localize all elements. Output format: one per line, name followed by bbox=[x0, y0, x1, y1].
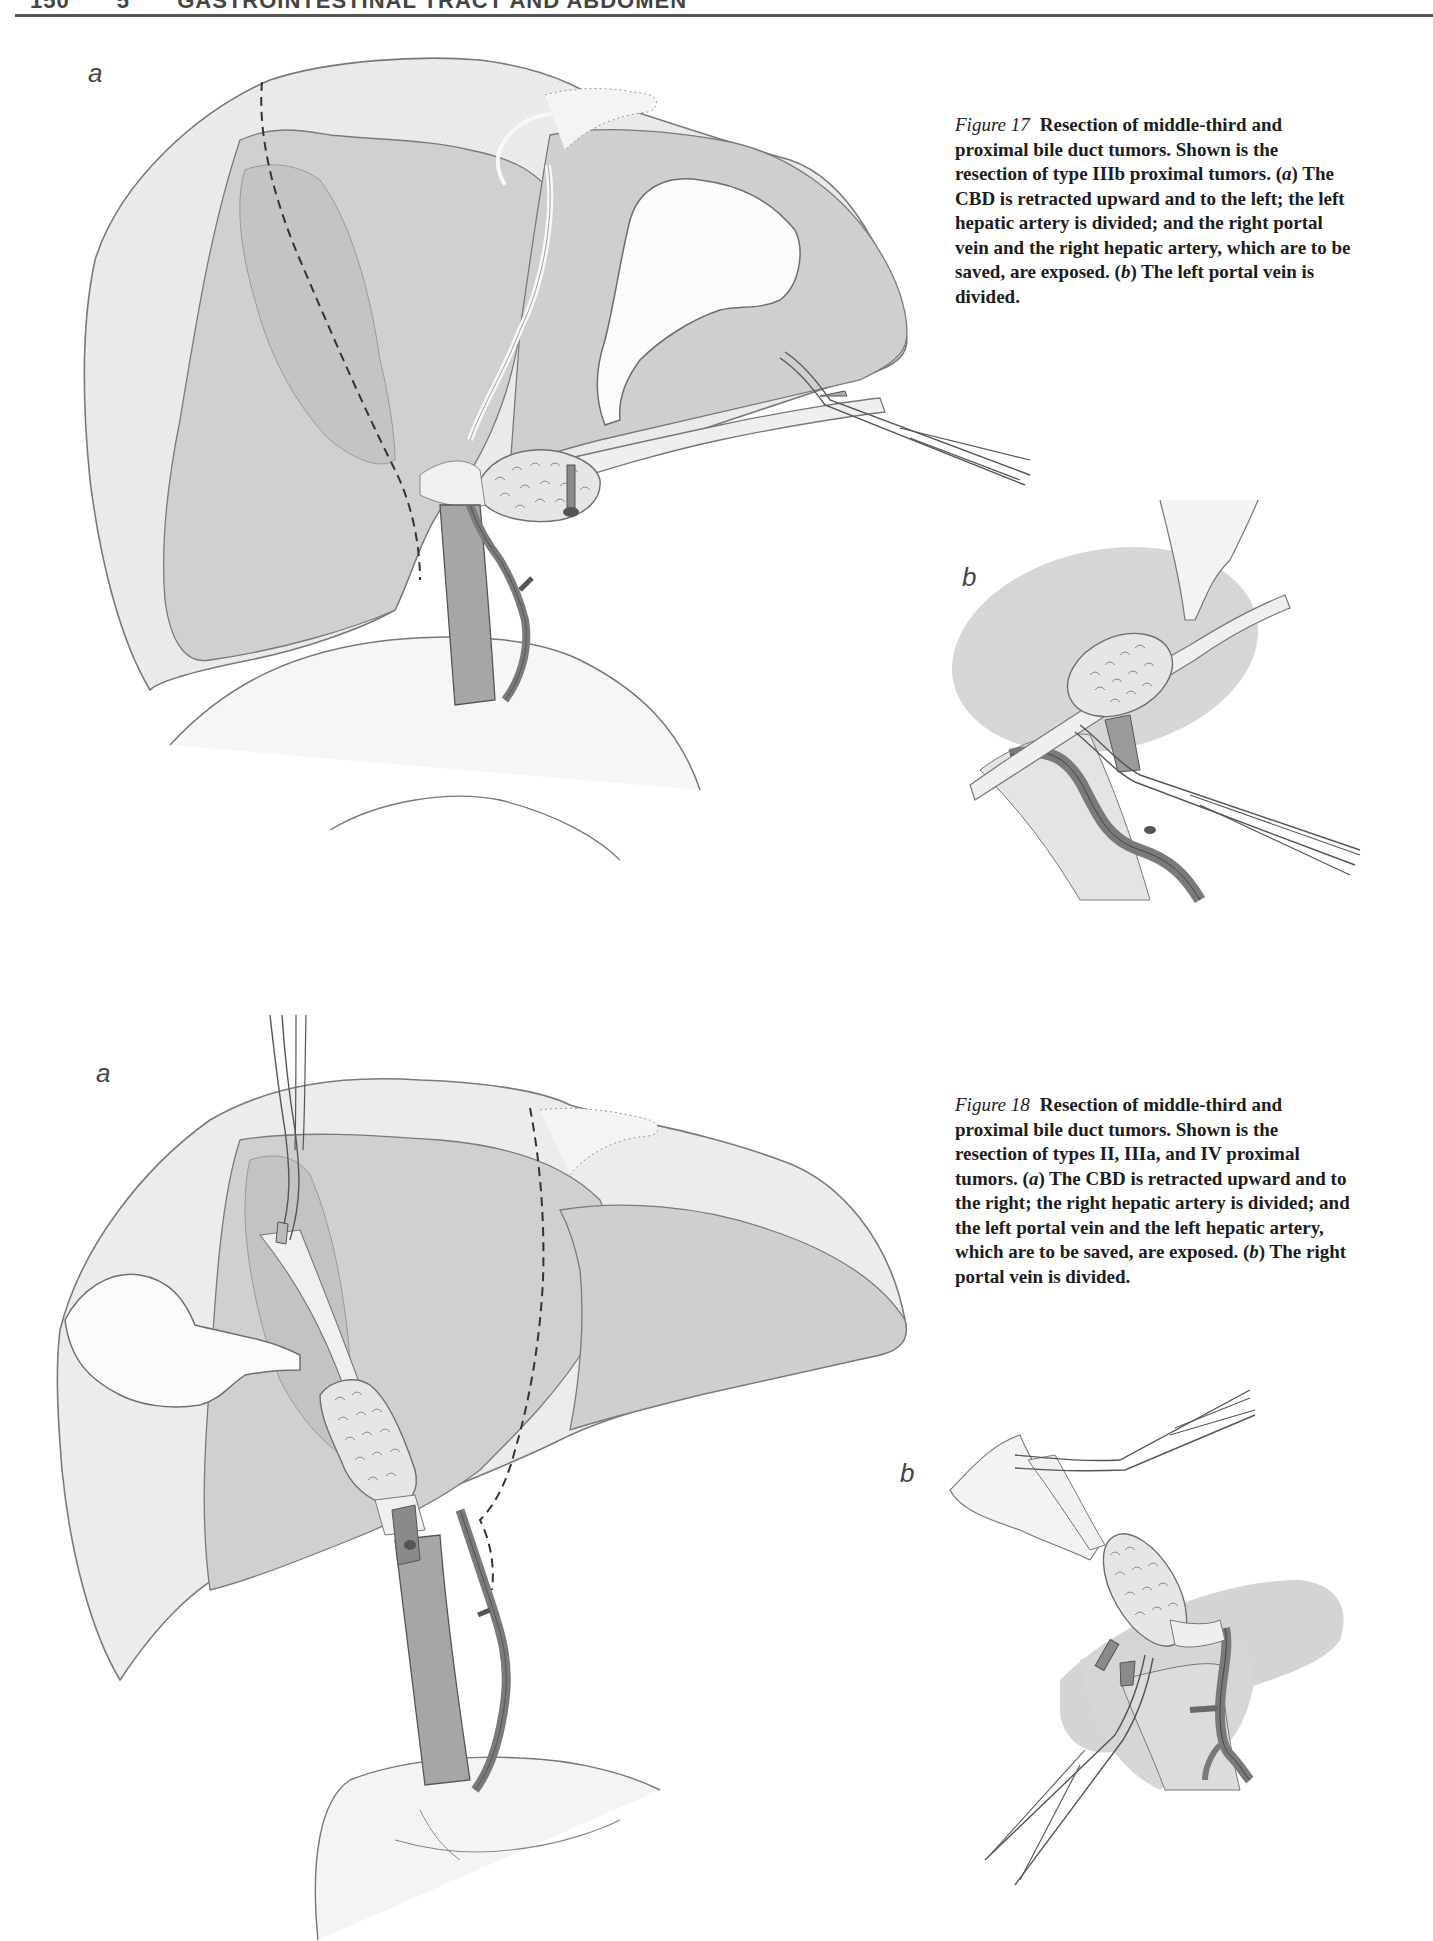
figure-18-number: Figure 18 bbox=[955, 1094, 1030, 1115]
figure-17-caption: Figure 17Resection of middle-third and p… bbox=[955, 113, 1355, 309]
figure-18a-illustration bbox=[0, 1000, 1000, 1941]
figure-17-number: Figure 17 bbox=[955, 114, 1030, 135]
figure-18-caption: Figure 18Resection of middle-third and p… bbox=[955, 1093, 1355, 1289]
figure-17b-illustration bbox=[940, 480, 1420, 900]
figure-18b-illustration bbox=[920, 1380, 1400, 1940]
figure-18-panel-b-label: b bbox=[900, 1458, 914, 1489]
